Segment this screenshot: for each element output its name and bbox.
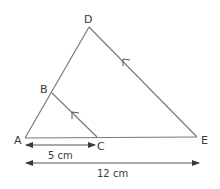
label-c: C <box>97 140 105 153</box>
segment-de <box>89 27 197 137</box>
label-d: D <box>84 13 92 26</box>
segment-ad <box>25 27 89 138</box>
label-b: B <box>40 83 48 96</box>
label-e: E <box>201 134 208 147</box>
measure-label-ae: 12 cm <box>97 168 128 179</box>
label-a: A <box>14 134 22 147</box>
triangle-diagram: D B A C E 5 cm 12 cm <box>0 0 220 189</box>
segment-ae <box>25 137 197 138</box>
measure-label-ac: 5 cm <box>48 150 73 161</box>
segment-bc <box>52 93 97 137</box>
